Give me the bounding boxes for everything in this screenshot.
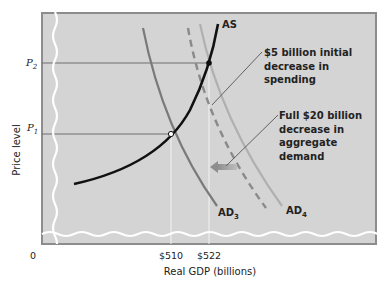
as-label: AS [222,19,237,30]
origin-label: 0 [30,250,36,261]
ad-as-chart: AS AD3 AD4 $5 billion initial decrease i… [0,0,391,284]
gdp-510-label: $510 [159,250,183,261]
equilibrium-p2-point [206,60,212,66]
gdp-522-label: $522 [197,250,221,261]
p2-tick-label: P2 [25,57,38,71]
chart-svg: AS AD3 AD4 $5 billion initial decrease i… [0,0,391,284]
x-axis-title: Real GDP (billions) [164,266,256,277]
equilibrium-p1-point [168,131,173,136]
p1-tick-label: P1 [26,122,38,136]
y-axis-title: Price level [11,124,22,175]
